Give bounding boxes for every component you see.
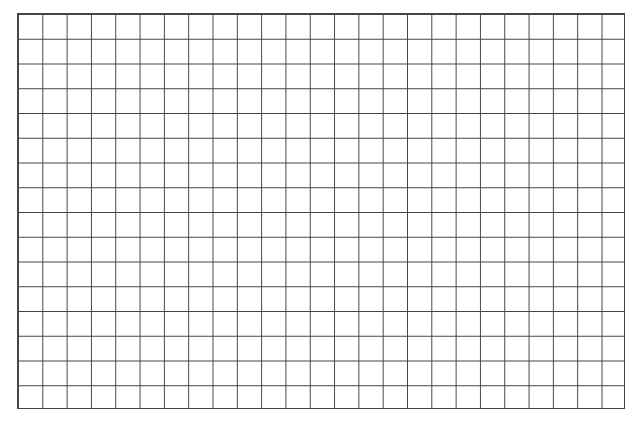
blank-grid bbox=[17, 13, 625, 409]
